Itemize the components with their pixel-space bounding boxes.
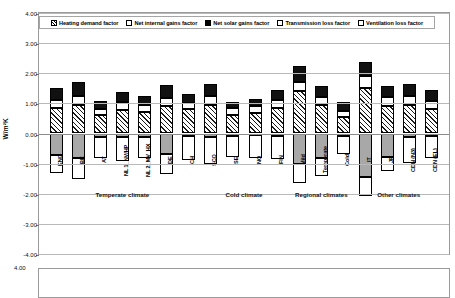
bar-segment-hatch	[271, 108, 284, 134]
bar-segment-white	[72, 158, 85, 179]
bar-segment-hatch	[204, 105, 217, 134]
bar-segment-white	[204, 137, 217, 165]
bar-segment-grey	[293, 134, 306, 165]
group-label-2: Regional climates	[295, 191, 348, 198]
group-label-1: Cold climate	[226, 191, 263, 198]
bar-segment-white	[381, 97, 394, 106]
bar-segment-black	[116, 92, 129, 102]
group-label-3: Other climates	[377, 191, 420, 198]
bar-segment-hatch	[337, 117, 350, 134]
bar-segment-grey	[160, 134, 173, 154]
bar-segment-hatch	[403, 105, 416, 134]
bar-segment-hatch	[381, 106, 394, 133]
group-label-0: Temperate climate	[95, 191, 149, 198]
bar-segment-hatch	[138, 112, 151, 134]
y-tick-label: 1.00	[25, 101, 37, 107]
y-axis-title: W/m²K	[2, 118, 9, 140]
gridline--3: -3.00	[39, 224, 449, 225]
gridline-3: 3.00	[39, 43, 449, 44]
gridline--1: -1.00	[39, 164, 449, 165]
bar-segment-hatch	[116, 110, 129, 133]
bar-segment-hatch	[425, 109, 438, 134]
gridline-0: 0.00	[39, 134, 449, 135]
bar-segment-grey	[359, 134, 372, 178]
y-tick-label: -3.00	[23, 222, 37, 228]
bar-segment-hatch	[249, 113, 262, 133]
gridline-1: 1.00	[39, 103, 449, 104]
bar-segment-white	[403, 137, 416, 164]
bar-segment-black	[72, 82, 85, 96]
gridline--4: -4.00	[39, 254, 449, 255]
y-tick-label: 2.00	[25, 71, 37, 77]
bar-segment-white	[94, 109, 107, 115]
bar-segment-white	[138, 137, 151, 159]
bar-segment-black	[50, 88, 63, 101]
bar-segment-white	[425, 101, 438, 109]
bar-segment-black	[425, 90, 438, 101]
bar-segment-white	[94, 137, 107, 159]
gridline-4: 4.00	[39, 13, 449, 14]
second-chart-frame	[38, 268, 450, 298]
bar-segment-white	[249, 106, 262, 113]
bar-segment-hatch	[72, 105, 85, 134]
bar-segment-grey	[72, 134, 85, 159]
bar-segment-white	[293, 164, 306, 183]
bar-segment-white	[315, 158, 328, 175]
bar-segment-black	[204, 84, 217, 95]
bar-segment-white	[425, 136, 438, 158]
bar-segment-grey	[381, 134, 394, 157]
bar-segment-hatch	[226, 115, 239, 134]
bar-segment-hatch	[94, 115, 107, 133]
bar-segment-black	[403, 84, 416, 96]
y-tick-label: -2.00	[23, 192, 37, 198]
plot-area: ENGBEATNL 1_NV/HPNL 2_MV_HXDECHSCOSENOFI…	[39, 13, 449, 254]
bar-segment-black	[381, 86, 394, 97]
bar-segment-white	[116, 137, 129, 160]
bar-segment-white	[293, 82, 306, 92]
bar-segment-white	[337, 136, 350, 154]
bar-segment-white	[249, 135, 262, 157]
y-tick-label: 0.00	[25, 132, 37, 138]
bar-segment-grey	[50, 134, 63, 156]
bar-segment-black	[160, 85, 173, 98]
bar-segment-hatch	[160, 106, 173, 134]
bar-segment-white	[182, 136, 195, 160]
bar-segment-white	[226, 136, 239, 157]
bar-segment-black	[182, 94, 195, 103]
y-tick-label: -4.00	[23, 252, 37, 258]
second-chart-ytick: 4.00	[14, 265, 26, 271]
bar-segment-black	[249, 99, 262, 106]
bar-segment-black	[94, 101, 107, 109]
bar-segment-white	[359, 76, 372, 88]
bar-segment-hatch	[182, 109, 195, 133]
bar-segment-black	[271, 90, 284, 101]
bar-segment-hatch	[359, 88, 372, 134]
bar-segment-white	[337, 111, 350, 117]
bar-segment-hatch	[315, 105, 328, 134]
y-tick-label: 3.00	[25, 41, 37, 47]
bar-segment-hatch	[293, 91, 306, 133]
y-tick-label: 4.00	[25, 11, 37, 17]
y-tick-label: -1.00	[23, 162, 37, 168]
bar-segment-white	[160, 98, 173, 106]
gridline-2: 2.00	[39, 73, 449, 74]
bar-segment-white	[138, 105, 151, 112]
bar-segment-grey	[315, 134, 328, 159]
bar-segment-black	[315, 86, 328, 97]
bar-segment-white	[271, 136, 284, 159]
bar-segment-hatch	[50, 108, 63, 134]
bar-segment-white	[226, 108, 239, 115]
